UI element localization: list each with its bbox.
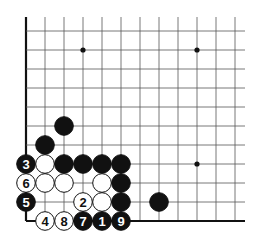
white-stone: 6 [17, 174, 36, 193]
black-stone [36, 136, 55, 155]
move-number: 5 [22, 195, 29, 210]
move-number: 3 [22, 157, 29, 172]
black-stone [55, 117, 74, 136]
black-stone [112, 155, 131, 174]
white-stone [55, 174, 74, 193]
white-stone [36, 174, 55, 193]
go-board-diagram: 365248719 [0, 0, 262, 249]
star-point [194, 47, 199, 52]
move-number: 6 [22, 176, 29, 191]
star-point [194, 161, 199, 166]
move-number: 4 [41, 214, 49, 229]
black-stone: 3 [17, 155, 36, 174]
black-stone: 5 [17, 193, 36, 212]
move-number: 9 [117, 214, 124, 229]
white-stone: 4 [36, 212, 55, 231]
white-stone: 8 [55, 212, 74, 231]
star-point [80, 47, 85, 52]
black-stone: 7 [74, 212, 93, 231]
move-number: 2 [79, 195, 86, 210]
black-stone: 9 [112, 212, 131, 231]
white-stone [93, 193, 112, 212]
white-stone: 2 [74, 193, 93, 212]
white-stone [93, 174, 112, 193]
stones-layer: 365248719 [17, 117, 169, 231]
black-stone: 1 [93, 212, 112, 231]
move-number: 7 [79, 214, 86, 229]
black-stone [112, 174, 131, 193]
black-stone [112, 193, 131, 212]
black-stone [93, 155, 112, 174]
black-stone [150, 193, 169, 212]
black-stone [55, 155, 74, 174]
move-number: 8 [60, 214, 67, 229]
move-number: 1 [98, 214, 105, 229]
black-stone [74, 155, 93, 174]
white-stone [36, 155, 55, 174]
